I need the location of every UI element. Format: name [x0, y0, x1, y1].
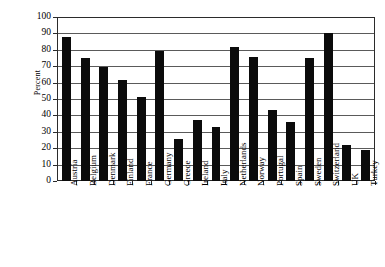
y-tick-label: 30: [5, 127, 51, 137]
y-tick-label: 90: [5, 28, 51, 38]
x-tick-label: UK: [351, 173, 360, 186]
gridline: [58, 148, 374, 149]
gridline: [58, 99, 374, 100]
x-tick-label: Greece: [183, 161, 192, 186]
plot-area: [57, 17, 375, 181]
gridline: [58, 132, 374, 133]
x-tick-label: Turkey: [370, 160, 379, 186]
x-tick-label: Denmark: [108, 153, 117, 187]
y-tick-label: 40: [5, 110, 51, 120]
x-tick-label: Spain: [295, 165, 304, 186]
x-tick-label: Switzerland: [332, 143, 341, 186]
x-tick-label: Germany: [164, 153, 173, 187]
gridline: [58, 115, 374, 116]
x-tick-label: France: [145, 162, 154, 187]
x-axis-labels: AustriaBelgiumDenmarkFinlandFranceGerman…: [57, 186, 375, 266]
x-tick-label: Finland: [126, 158, 135, 186]
x-tick-label: Italy: [220, 170, 229, 187]
gridline: [58, 50, 374, 51]
gridline: [58, 66, 374, 67]
x-tick-label: Norway: [257, 157, 266, 186]
x-tick-label: Austria: [70, 160, 79, 187]
x-tick-label: Ireland: [201, 161, 210, 186]
x-tick-label: Sweden: [314, 158, 323, 187]
y-tick-label: 100: [5, 12, 51, 22]
x-tick-label: Belgium: [89, 155, 98, 186]
y-tick-label: 60: [5, 78, 51, 88]
x-tick-label: Portugal: [276, 156, 285, 187]
y-tick-label: 20: [5, 143, 51, 153]
y-tick-label: 10: [5, 160, 51, 170]
y-tick-label: 0: [5, 176, 51, 186]
y-tick-label: 50: [5, 94, 51, 104]
y-tick-label: 80: [5, 45, 51, 55]
gridline: [58, 33, 374, 34]
bar-chart: Percent 0102030405060708090100 AustriaBe…: [0, 0, 385, 267]
y-tick-label: 70: [5, 61, 51, 71]
x-tick-label: Netherlands: [239, 143, 248, 186]
gridline: [58, 165, 374, 166]
x-axis-ticks: [57, 181, 375, 185]
gridline: [58, 83, 374, 84]
